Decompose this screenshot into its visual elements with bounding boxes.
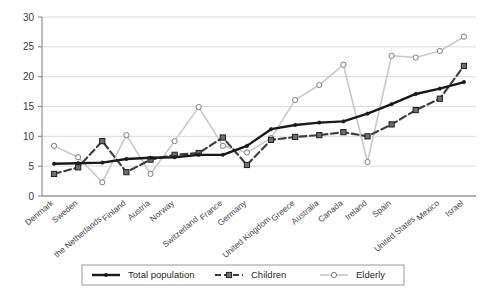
- data-point-marker: [413, 107, 418, 112]
- chart-legend: Total populationChildrenElderly: [82, 265, 404, 285]
- data-point-marker: [318, 121, 321, 124]
- data-point-marker: [124, 133, 129, 138]
- data-point-marker: [414, 92, 417, 95]
- x-category-label: Canada: [316, 198, 345, 225]
- x-category-label: Spain: [370, 198, 393, 220]
- data-point-marker: [317, 82, 322, 87]
- y-tick-label: 0: [28, 191, 34, 202]
- x-category-label: Sweden: [50, 198, 80, 225]
- x-category-label: Finland: [100, 198, 128, 224]
- data-point-marker: [293, 97, 298, 102]
- data-point-marker: [269, 127, 272, 130]
- x-category-label: United States: [372, 214, 417, 254]
- data-point-marker: [437, 48, 442, 53]
- data-point-marker: [76, 161, 79, 164]
- y-tick-label: 10: [23, 131, 35, 142]
- data-point-marker: [365, 134, 370, 139]
- data-point-marker: [389, 122, 394, 127]
- y-tick-label: 5: [28, 161, 34, 172]
- x-category-label: Switzerland: [160, 214, 200, 250]
- data-point-marker: [341, 130, 346, 135]
- data-point-marker: [172, 139, 177, 144]
- data-point-marker: [149, 156, 152, 159]
- x-category-label: Ireland: [343, 198, 369, 222]
- y-tick-label: 25: [23, 41, 35, 52]
- data-point-marker: [221, 153, 224, 156]
- y-tick-label: 30: [23, 12, 35, 23]
- data-point-marker: [226, 272, 231, 277]
- legend-label: Total population: [128, 269, 195, 280]
- data-point-marker: [413, 55, 418, 60]
- data-point-marker: [100, 139, 105, 144]
- series-layer: [51, 34, 466, 185]
- data-point-marker: [293, 123, 296, 126]
- gridlines: [42, 17, 476, 196]
- legend-label: Children: [251, 269, 286, 280]
- data-point-marker: [51, 143, 56, 148]
- y-tick-label: 20: [23, 71, 35, 82]
- data-point-marker: [220, 135, 225, 140]
- x-axis-category-labels: DenmarkSwedenthe NetherlandsFinlandAustr…: [23, 197, 465, 259]
- data-point-marker: [52, 162, 55, 165]
- data-point-marker: [196, 104, 201, 109]
- data-point-marker: [365, 159, 370, 164]
- data-point-marker: [331, 272, 336, 277]
- y-tick-label: 15: [23, 101, 35, 112]
- data-point-marker: [366, 112, 369, 115]
- data-point-marker: [293, 134, 298, 139]
- data-point-marker: [461, 34, 466, 39]
- legend-label: Elderly: [356, 269, 385, 280]
- chart-canvas: 051015202530 DenmarkSwedenthe Netherland…: [0, 0, 487, 297]
- x-category-label: Norway: [148, 197, 177, 223]
- data-point-marker: [244, 150, 249, 155]
- data-point-marker: [100, 180, 105, 185]
- series-elderly: [51, 34, 466, 185]
- data-point-marker: [317, 133, 322, 138]
- x-category-label: Israel: [443, 198, 465, 219]
- data-point-marker: [389, 53, 394, 58]
- x-category-label: Mexico: [414, 198, 441, 223]
- x-category-label: Austria: [125, 198, 152, 223]
- data-point-marker: [124, 170, 129, 175]
- data-point-marker: [173, 156, 176, 159]
- data-point-marker: [461, 63, 466, 68]
- line-chart: 051015202530 DenmarkSwedenthe Netherland…: [0, 0, 487, 297]
- data-point-marker: [104, 273, 107, 276]
- x-category-label: Australia: [289, 198, 321, 227]
- y-axis-tick-marks: [38, 17, 42, 196]
- data-point-marker: [220, 143, 225, 148]
- data-point-marker: [245, 144, 248, 147]
- data-point-marker: [76, 165, 81, 170]
- data-point-marker: [101, 161, 104, 164]
- data-point-marker: [341, 62, 346, 67]
- data-point-marker: [244, 162, 249, 167]
- data-point-marker: [148, 171, 153, 176]
- data-point-marker: [197, 153, 200, 156]
- data-point-marker: [438, 87, 441, 90]
- data-point-marker: [437, 96, 442, 101]
- data-point-marker: [125, 157, 128, 160]
- y-axis-tick-labels: 051015202530: [23, 12, 35, 202]
- data-point-marker: [51, 171, 56, 176]
- data-point-marker: [268, 137, 273, 142]
- data-point-marker: [76, 155, 81, 160]
- data-point-marker: [342, 120, 345, 123]
- data-point-marker: [390, 102, 393, 105]
- x-category-label: Denmark: [23, 197, 56, 227]
- data-point-marker: [462, 80, 465, 83]
